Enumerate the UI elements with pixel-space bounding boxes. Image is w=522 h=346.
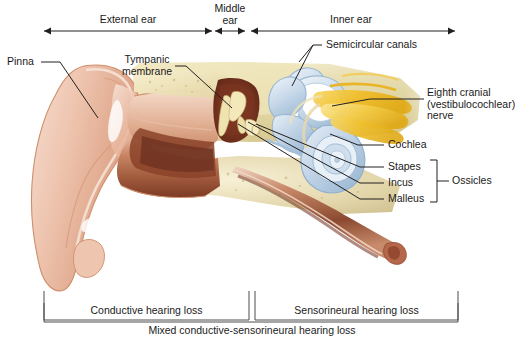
leader-eighth-nerve	[332, 99, 424, 106]
leader-pinna	[41, 62, 98, 118]
annotation-lines	[0, 0, 522, 346]
leader-semicircular-canals	[292, 45, 322, 86]
callout-malleus: Malleus	[388, 193, 424, 205]
ear-anatomy-figure: External ear Middle ear Inner ear Pinna …	[0, 0, 522, 346]
bracket-label-mixed-hearing-loss: Mixed conductive-sensorineural hearing l…	[46, 325, 458, 337]
callout-pinna: Pinna	[7, 56, 34, 68]
leader-tympanic-membrane	[175, 66, 232, 108]
callout-incus: Incus	[388, 177, 413, 189]
callout-ossicles: Ossicles	[452, 175, 492, 187]
leader-incus	[248, 122, 384, 183]
callout-semicircular-canals: Semicircular canals	[326, 39, 417, 51]
bracket-label-conductive-hearing-loss: Conductive hearing loss	[46, 305, 247, 317]
ossicles-bracket	[430, 160, 449, 202]
callout-stapes: Stapes	[388, 161, 421, 173]
scale-label-external-ear: External ear	[68, 14, 188, 26]
scale-label-middle-ear: Middle ear	[200, 3, 260, 26]
scale-label-inner-ear: Inner ear	[301, 14, 401, 26]
callout-tympanic-membrane: Tympanic membrane	[113, 54, 181, 77]
leader-malleus	[238, 124, 384, 199]
bracket-label-sensorineural-hearing-loss: Sensorineural hearing loss	[257, 305, 456, 317]
callout-cochlea: Cochlea	[388, 139, 427, 151]
leader-cochlea	[330, 134, 384, 145]
callout-eighth-cranial-nerve: Eighth cranial (vestibulocochlear) nerve	[427, 87, 515, 122]
